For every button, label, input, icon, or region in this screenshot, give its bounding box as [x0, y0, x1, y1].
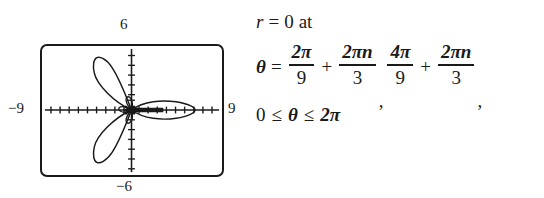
plus-sign-2: + [415, 57, 436, 76]
math-line-theta-domain: 0 ≤ θ ≤ 2π [252, 98, 544, 130]
denominator-9: 9 [393, 67, 409, 89]
math-line-theta-solutions: θ = 2π 9 + 2πn 3 , 4π 9 + 2πn 3 , [252, 34, 544, 98]
denominator-3: 3 [350, 67, 366, 89]
numerator-2pin: 2πn [339, 41, 375, 63]
denominator-3: 3 [448, 67, 464, 89]
polar-rose-curve [42, 46, 222, 175]
numerator-4pi: 4π [387, 41, 413, 63]
fraction-bar [438, 64, 474, 66]
x-max-label: 9 [228, 101, 236, 116]
equals-sign-2: = [266, 57, 287, 76]
variable-theta: θ [256, 57, 266, 76]
domain-lower-bound: 0 [256, 105, 266, 124]
less-equal-sign-1: ≤ [266, 105, 288, 124]
fraction-2pi-over-9: 2π 9 [289, 41, 315, 89]
domain-upper-bound: 2π [320, 105, 340, 124]
less-equal-sign-2: ≤ [298, 105, 320, 124]
word-at: at [294, 12, 313, 31]
fraction-bar [387, 64, 413, 66]
equals-sign: = [263, 12, 284, 31]
y-max-label: 6 [120, 17, 128, 32]
comma-separator-2: , [476, 91, 484, 110]
value-zero: 0 [284, 12, 294, 31]
comma-separator-1: , [378, 91, 386, 110]
answer-expression: r = 0 at θ = 2π 9 + 2πn 3 , 4π 9 + 2πn 3 [252, 8, 544, 143]
graph-screen-frame [40, 44, 224, 177]
variable-theta-domain: θ [288, 105, 298, 124]
math-line-r-equals-zero: r = 0 at [252, 8, 544, 34]
numerator-2pin: 2πn [438, 41, 474, 63]
calculator-graph-panel: 6 −6 −9 9 [0, 0, 248, 198]
plus-sign-1: + [316, 57, 337, 76]
y-min-label: −6 [116, 179, 132, 194]
x-min-label: −9 [8, 101, 24, 116]
fraction-bar [339, 64, 375, 66]
fraction-2pin-over-3-first: 2πn 3 [339, 41, 375, 89]
fraction-bar [289, 64, 315, 66]
fraction-2pin-over-3-second: 2πn 3 [438, 41, 474, 89]
denominator-9: 9 [294, 67, 310, 89]
variable-r: r [256, 12, 263, 31]
fraction-4pi-over-9: 4π 9 [387, 41, 413, 89]
numerator-2pi: 2π [289, 41, 315, 63]
